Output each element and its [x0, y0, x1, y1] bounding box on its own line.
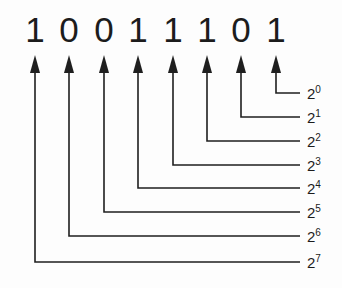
connector-line	[35, 70, 300, 262]
label-exponent: 0	[315, 84, 321, 95]
connector-line	[276, 70, 300, 93]
power-of-two-label: 27	[307, 255, 321, 271]
label-exponent: 2	[315, 132, 321, 143]
connector-line	[207, 70, 300, 141]
label-exponent: 6	[315, 227, 321, 238]
power-of-two-label: 24	[307, 181, 321, 197]
power-of-two-label: 25	[307, 205, 321, 221]
label-exponent: 3	[315, 156, 321, 167]
power-of-two-label: 22	[307, 134, 321, 150]
label-exponent: 7	[315, 253, 321, 264]
power-of-two-label: 20	[307, 86, 321, 102]
label-exponent: 5	[315, 203, 321, 214]
label-exponent: 4	[315, 179, 321, 190]
label-exponent: 1	[315, 108, 321, 119]
power-of-two-label: 23	[307, 158, 321, 174]
binary-place-value-diagram: 10011101 2726252423222120	[0, 0, 342, 288]
power-of-two-label: 26	[307, 229, 321, 245]
connector-lines	[0, 0, 342, 288]
power-of-two-label: 21	[307, 110, 321, 126]
